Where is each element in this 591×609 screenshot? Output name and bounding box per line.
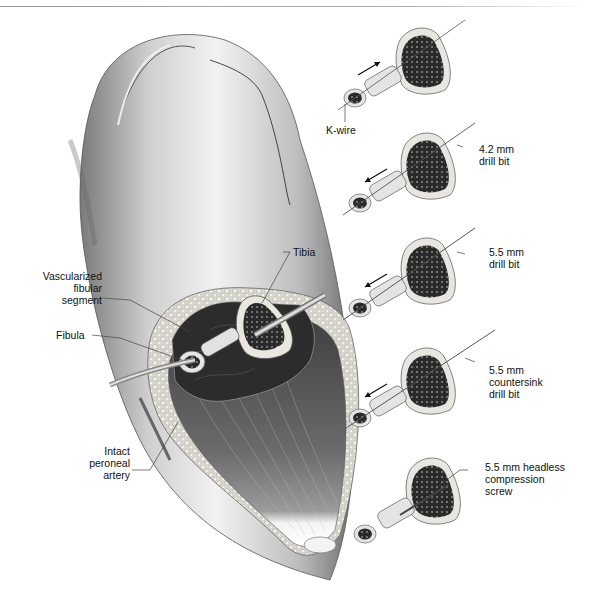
step-3 bbox=[343, 228, 475, 320]
step-5 bbox=[354, 458, 468, 543]
tendon-end bbox=[304, 537, 336, 553]
label-fibula: Fibula bbox=[56, 329, 85, 341]
label-step-4-countersink: 5.5 mm countersink drill bit bbox=[489, 364, 543, 400]
step-2 bbox=[343, 123, 475, 215]
step-1 bbox=[338, 20, 465, 122]
label-step-5-screw: 5.5 mm headless compression screw bbox=[485, 461, 565, 497]
label-intact-peroneal-artery: Intact peroneal artery bbox=[70, 445, 130, 481]
label-step-1-kwire: K-wire bbox=[326, 124, 356, 136]
label-step-3-drill: 5.5 mm drill bit bbox=[489, 246, 524, 270]
label-step-2-drill: 4.2 mm drill bit bbox=[479, 143, 514, 167]
step-4 bbox=[343, 330, 495, 430]
label-tibia: Tibia bbox=[293, 246, 315, 258]
label-vascularized-fibular-segment: Vascularized fibular segment bbox=[24, 270, 102, 306]
step-diagrams bbox=[338, 20, 495, 543]
